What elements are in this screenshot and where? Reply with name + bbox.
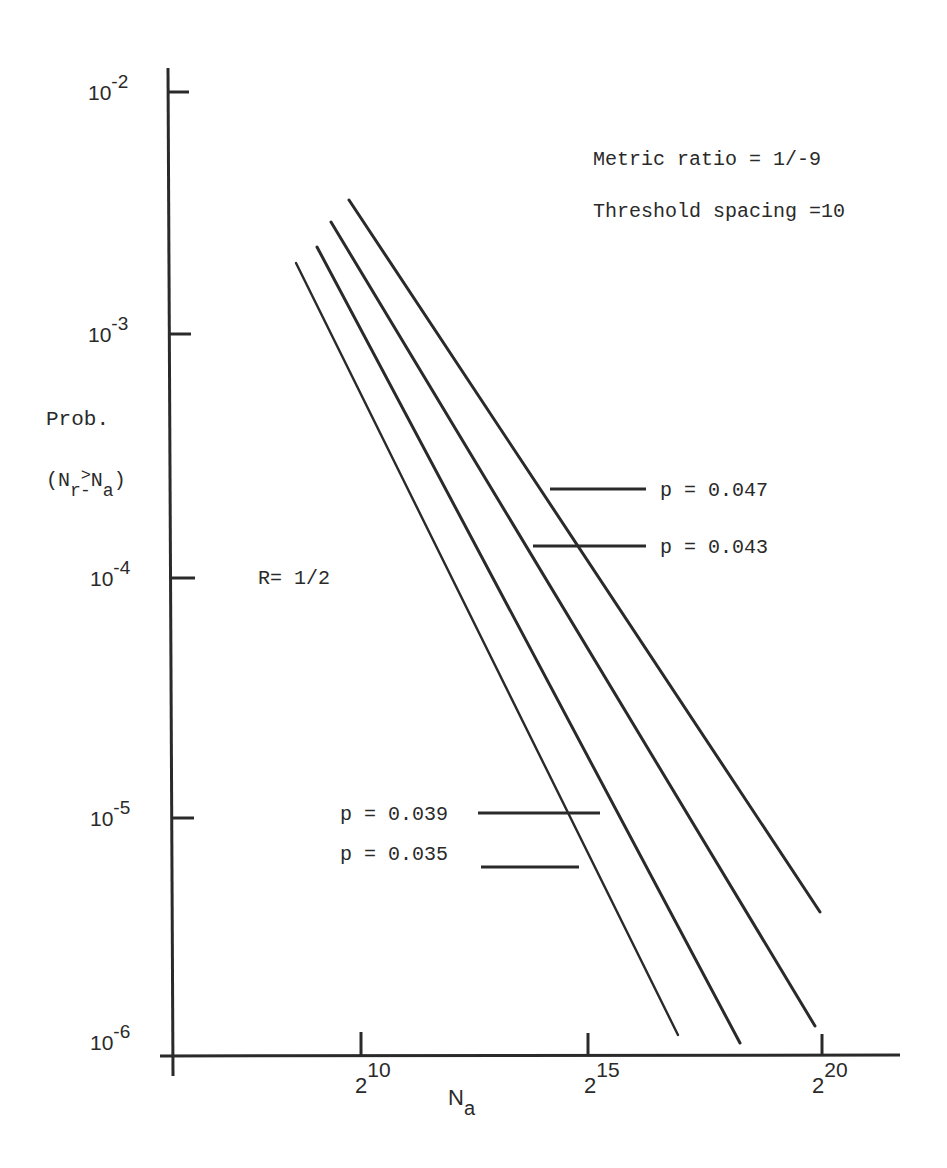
curve-p-0.043 bbox=[331, 222, 815, 1026]
svg-text:210: 210 bbox=[355, 1058, 391, 1098]
svg-text:215: 215 bbox=[584, 1058, 620, 1098]
legend-label-p-0.035: p = 0.035 bbox=[340, 843, 448, 866]
svg-text:220: 220 bbox=[812, 1058, 848, 1098]
threshold-spacing-annotation: Threshold spacing =10 bbox=[593, 200, 845, 223]
svg-text:10-5: 10-5 bbox=[90, 797, 130, 830]
x-axis bbox=[160, 1055, 900, 1056]
y-axis bbox=[168, 68, 173, 1076]
metric-ratio-annotation: Metric ratio = 1/-9 bbox=[593, 148, 821, 171]
svg-text:10-2: 10-2 bbox=[88, 71, 128, 104]
x-axis-label: Na bbox=[448, 1085, 476, 1119]
curves bbox=[296, 200, 820, 1043]
rate-annotation: R= 1/2 bbox=[258, 567, 330, 590]
curve-p-0.035 bbox=[296, 263, 678, 1035]
curve-p-0.039 bbox=[317, 247, 740, 1043]
svg-text:10-3: 10-3 bbox=[88, 313, 128, 346]
x-ticks bbox=[361, 1032, 822, 1056]
svg-text:10-6: 10-6 bbox=[90, 1021, 130, 1054]
y-axis-label-line2: (Nr>-Na) bbox=[46, 466, 126, 501]
legend-lines bbox=[478, 489, 646, 867]
y-axis-label-line1: Prob. bbox=[46, 408, 109, 431]
legend-label-p-0.039: p = 0.039 bbox=[340, 803, 448, 826]
y-tick-labels: 10-2 10-3 10-4 10-5 10-6 bbox=[88, 71, 131, 1054]
legend-label-p-0.043: p = 0.043 bbox=[660, 536, 768, 559]
legend-label-p-0.047: p = 0.047 bbox=[660, 479, 768, 502]
svg-text:10-4: 10-4 bbox=[90, 557, 131, 590]
chart: 10-2 10-3 10-4 10-5 10-6 210 215 220 Na … bbox=[0, 0, 947, 1168]
x-tick-labels: 210 215 220 bbox=[355, 1058, 848, 1098]
